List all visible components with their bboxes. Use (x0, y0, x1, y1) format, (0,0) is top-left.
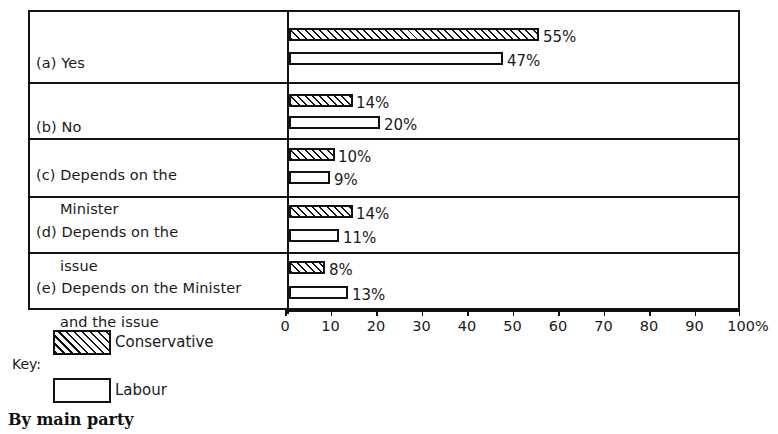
bar-conservative-e (289, 261, 325, 274)
x-tick-0 (285, 310, 287, 316)
x-tick-40 (467, 310, 469, 316)
bar-value-labour-c: 9% (334, 173, 358, 188)
x-tick-label-20: 20 (367, 318, 385, 334)
row-label-c-line1: (c) Depends on the (36, 167, 177, 183)
legend-label-conservative: Conservative (115, 334, 214, 351)
bar-conservative-c (289, 148, 335, 161)
bar-value-labour-a: 47% (507, 54, 540, 69)
x-tick-90 (695, 310, 697, 316)
row-label-e-line1: (e) Depends on the Minister (36, 280, 241, 296)
chart-caption: By main party (8, 410, 134, 430)
row-label-b: (b) No (36, 102, 284, 136)
row-label-a: (a) Yes (36, 38, 284, 72)
bar-labour-c (289, 171, 330, 184)
x-tick-label-70: 70 (594, 318, 612, 334)
chart-row-d: (d) Depends on the issue 14% 11% (30, 198, 738, 254)
bar-conservative-a (289, 28, 539, 41)
x-tick-10 (331, 310, 333, 316)
row-plot-a: 55% 47% (289, 12, 738, 82)
row-plot-c: 10% 9% (289, 140, 738, 196)
x-tick-70 (604, 310, 606, 316)
x-tick-80 (649, 310, 651, 316)
x-tick-100 (739, 310, 741, 316)
bar-labour-e (289, 286, 348, 299)
bar-conservative-b (289, 94, 353, 107)
bar-value-conservative-c: 10% (338, 150, 371, 165)
x-axis: 0 10 20 30 40 50 60 70 80 90 100% (285, 310, 740, 340)
bar-labour-b (289, 116, 380, 129)
x-tick-label-90: 90 (685, 318, 703, 334)
x-tick-20 (376, 310, 378, 316)
bar-value-conservative-a: 55% (543, 30, 576, 45)
bar-value-labour-d: 11% (343, 231, 376, 246)
x-tick-label-80: 80 (640, 318, 658, 334)
row-plot-b: 14% 20% (289, 84, 738, 138)
row-label-e: (e) Depends on the Minister and the issu… (36, 263, 284, 331)
legend-label-labour: Labour (115, 382, 167, 399)
bar-value-labour-e: 13% (352, 288, 385, 303)
row-plot-e: 8% 13% (289, 254, 738, 312)
bar-conservative-d (289, 205, 353, 218)
x-tick-label-100: 100% (727, 318, 768, 334)
bar-value-conservative-d: 14% (356, 207, 389, 222)
x-tick-label-40: 40 (458, 318, 476, 334)
bar-value-labour-b: 20% (384, 118, 417, 133)
bar-value-conservative-b: 14% (356, 96, 389, 111)
x-tick-label-60: 60 (549, 318, 567, 334)
x-tick-label-50: 50 (503, 318, 521, 334)
legend-key-label: Key: (12, 356, 41, 372)
row-plot-d: 14% 11% (289, 198, 738, 252)
chart-legend: Key: Conservative Labour (0, 326, 300, 410)
chart-row-e: (e) Depends on the Minister and the issu… (30, 254, 738, 312)
x-tick-50 (513, 310, 515, 316)
x-tick-label-10: 10 (321, 318, 339, 334)
x-tick-30 (422, 310, 424, 316)
chart-row-b: (b) No 14% 20% (30, 84, 738, 140)
row-label-d-line1: (d) Depends on the (36, 224, 178, 240)
legend-swatch-labour (53, 378, 111, 403)
row-label-a-line1: (a) Yes (36, 55, 85, 71)
row-label-b-line1: (b) No (36, 119, 81, 135)
chart-row-a: (a) Yes 55% 47% (30, 12, 738, 84)
bar-labour-d (289, 229, 339, 242)
x-tick-60 (558, 310, 560, 316)
chart-plot-area: (a) Yes 55% 47% (b) No 14% 20% (c) Depen… (28, 10, 740, 310)
bar-value-conservative-e: 8% (329, 263, 353, 278)
chart-row-c: (c) Depends on the Minister 10% 9% (30, 140, 738, 198)
bar-labour-a (289, 52, 503, 65)
x-tick-label-30: 30 (412, 318, 430, 334)
legend-swatch-conservative (53, 330, 111, 355)
